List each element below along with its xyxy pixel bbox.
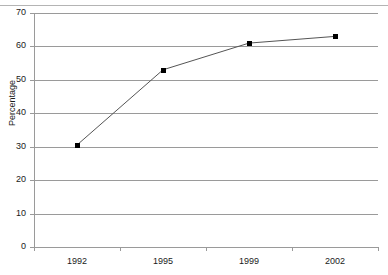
y-axis-tick-label: 70 bbox=[0, 8, 26, 17]
y-axis-tick-label: 30 bbox=[0, 142, 26, 151]
series-line-layer bbox=[0, 0, 388, 275]
series-polyline bbox=[77, 36, 335, 145]
x-axis-tick-label: 1992 bbox=[47, 256, 107, 266]
y-axis-line bbox=[34, 13, 35, 248]
x-axis-tick bbox=[292, 247, 293, 251]
grid-line bbox=[34, 113, 378, 114]
x-axis-tick bbox=[34, 247, 35, 251]
grid-line bbox=[34, 180, 378, 181]
x-axis-tick-label: 1999 bbox=[219, 256, 279, 266]
line-chart: 010203040506070 Percentage 1992199519992… bbox=[0, 0, 388, 275]
y-axis-title: Percentage bbox=[7, 63, 17, 143]
data-point-marker bbox=[333, 34, 338, 39]
x-axis-tick-label: 2002 bbox=[305, 256, 365, 266]
top-border-rule bbox=[0, 5, 388, 6]
y-axis-tick-label: 20 bbox=[0, 175, 26, 184]
x-axis-tick bbox=[120, 247, 121, 251]
data-point-marker bbox=[247, 41, 252, 46]
x-axis-tick-label: 1995 bbox=[133, 256, 193, 266]
y-axis-tick-label: 10 bbox=[0, 209, 26, 218]
grid-line bbox=[34, 46, 378, 47]
x-axis-tick bbox=[378, 247, 379, 251]
x-axis-tick bbox=[206, 247, 207, 251]
data-point-marker bbox=[161, 68, 166, 73]
data-point-marker bbox=[75, 143, 80, 148]
grid-line bbox=[34, 147, 378, 148]
y-axis-tick-label: 60 bbox=[0, 41, 26, 50]
grid-line bbox=[34, 214, 378, 215]
y-axis-tick-label: 0 bbox=[0, 242, 26, 251]
grid-line bbox=[34, 80, 378, 81]
grid-line bbox=[34, 13, 378, 14]
